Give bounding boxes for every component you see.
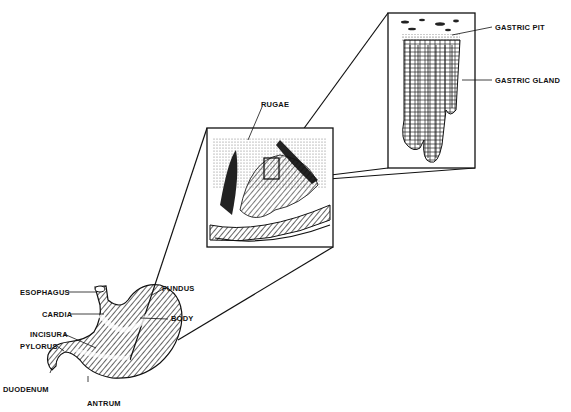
label-incisura: INCISURA <box>30 330 68 339</box>
label-pylorus: PYLORUS <box>20 342 58 351</box>
gastric-gland-inset <box>388 13 475 168</box>
diagram-artwork <box>0 0 571 412</box>
label-cardia: CARDIA <box>42 310 72 319</box>
label-esophagus: ESOPHAGUS <box>20 288 70 297</box>
stomach-anatomy-diagram: ESOPHAGUS CARDIA INCISURA PYLORUS DUODEN… <box>0 0 571 412</box>
label-fundus: FUNDUS <box>162 284 194 293</box>
label-rugae: RUGAE <box>261 100 289 109</box>
label-body: BODY <box>171 314 193 323</box>
label-gastric-gland: GASTRIC GLAND <box>495 76 560 85</box>
label-duodenum: DUODENUM <box>3 385 49 394</box>
rugae-inset <box>207 128 333 247</box>
label-gastric-pit: GASTRIC PIT <box>495 23 545 32</box>
label-antrum: ANTRUM <box>87 399 121 408</box>
